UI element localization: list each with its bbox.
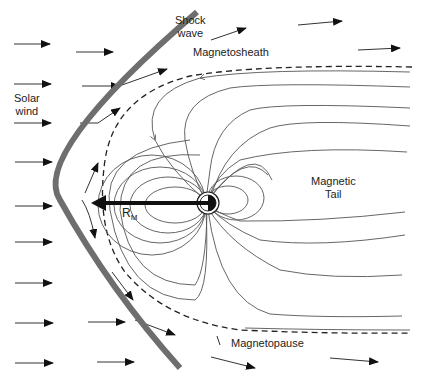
shock-wave [55, 12, 197, 368]
shock-wave-label: Shock wave [175, 14, 206, 40]
solar-wind-label-line2: wind [14, 105, 40, 118]
rm-label: RM [122, 207, 137, 224]
rm-label-sub: M [131, 213, 138, 222]
magnetic-tail-label-line2: Tail [311, 188, 356, 201]
rm-label-main: R [122, 206, 131, 220]
solar-wind-label: Solar wind [14, 92, 40, 118]
shock-wave-label-line2: wave [175, 27, 206, 40]
magnetopause-label: Magnetopause [231, 337, 304, 350]
magnetosphere-diagram: Shock wave Magnetosheath Solar wind Magn… [0, 0, 422, 383]
shock-wave-label-line1: Shock [175, 14, 206, 27]
magnetic-tail-label: Magnetic Tail [311, 175, 356, 201]
magnetosheath-label: Magnetosheath [193, 46, 269, 59]
magnetic-tail-label-line1: Magnetic [311, 175, 356, 188]
solar-wind-label-line1: Solar [14, 92, 40, 105]
